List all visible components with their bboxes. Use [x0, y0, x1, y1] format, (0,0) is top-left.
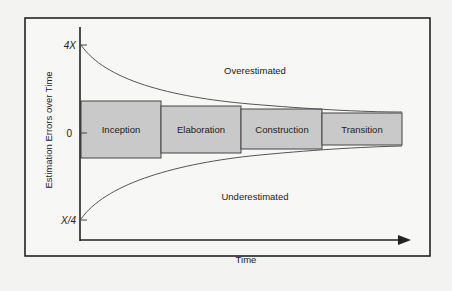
y-tick-label-4x: 4X: [64, 40, 77, 51]
phase-label-construction: Construction: [255, 124, 308, 135]
y-tick-label-x4: X/4: [60, 215, 76, 226]
cone-of-uncertainty-diagram: 4X 0 X/4 Estimation Errors over Time Inc…: [0, 0, 452, 291]
y-tick-label-0: 0: [66, 128, 72, 139]
phase-label-inception: Inception: [102, 124, 141, 135]
region-label-underestimated: Underestimated: [221, 191, 288, 202]
region-label-overestimated: Overestimated: [224, 65, 286, 76]
phase-label-transition: Transition: [341, 124, 382, 135]
y-axis-title: Estimation Errors over Time: [43, 71, 54, 188]
x-axis-title: Time: [236, 254, 257, 265]
phase-label-elaboration: Elaboration: [177, 124, 225, 135]
